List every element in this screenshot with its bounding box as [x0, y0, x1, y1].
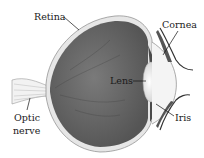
- eye-diagram: Retina Cornea Lens Iris Optic nerve: [0, 0, 204, 158]
- label-cornea: Cornea: [162, 20, 197, 30]
- label-nerve: nerve: [13, 126, 40, 136]
- label-optic: Optic: [14, 113, 40, 123]
- label-retina: Retina: [34, 12, 65, 22]
- retina-leader: [64, 17, 79, 30]
- label-lens: Lens: [110, 76, 133, 86]
- optic-nerve-shape: [12, 79, 48, 104]
- label-iris: Iris: [175, 113, 191, 123]
- cornea-leader: [163, 31, 178, 55]
- eyeball-interior: [50, 21, 148, 147]
